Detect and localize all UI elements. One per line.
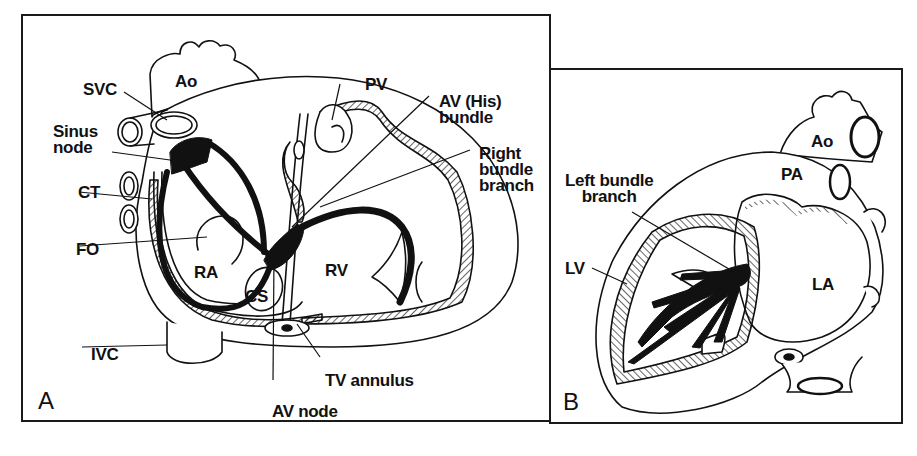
label-ct: CT <box>78 184 100 201</box>
label-ao: Ao <box>175 73 197 90</box>
label-cs: CS <box>245 288 268 305</box>
label-svc: SVC <box>83 81 117 98</box>
label-left-bundle-branch: Left bundle branch <box>565 173 653 205</box>
label-fo: FO <box>76 241 99 258</box>
label-right-bundle-branch: Right bundle branch <box>479 146 534 194</box>
panel-b-left-heart: Ao PA Left bundle branch LV LA B <box>549 68 903 424</box>
panel-letter-a: A <box>38 389 54 413</box>
label-sinus-node: Sinus node <box>53 124 98 156</box>
label-ao: Ao <box>811 133 833 150</box>
label-ra: RA <box>194 264 218 281</box>
label-ivc: IVC <box>91 346 118 363</box>
label-lv: LV <box>565 260 585 277</box>
label-pv: PV <box>365 76 387 93</box>
ivc-ring <box>798 378 842 394</box>
label-av-node: AV node <box>272 403 338 420</box>
panel-letter-b: B <box>563 390 579 414</box>
label-his-bundle: AV (His) bundle <box>439 94 501 126</box>
label-rv: RV <box>325 262 348 279</box>
label-pa: PA <box>781 166 803 183</box>
aorta-ring <box>851 117 879 157</box>
label-tv-annulus: TV annulus <box>325 372 414 389</box>
label-la: LA <box>812 276 834 293</box>
pa-ring <box>830 165 850 199</box>
panel-a-right-heart: Ao SVC Sinus node CT FO RA CS IVC PV AV … <box>21 14 551 422</box>
left-heart-diagram <box>551 70 905 426</box>
pv-orifice <box>294 141 304 159</box>
